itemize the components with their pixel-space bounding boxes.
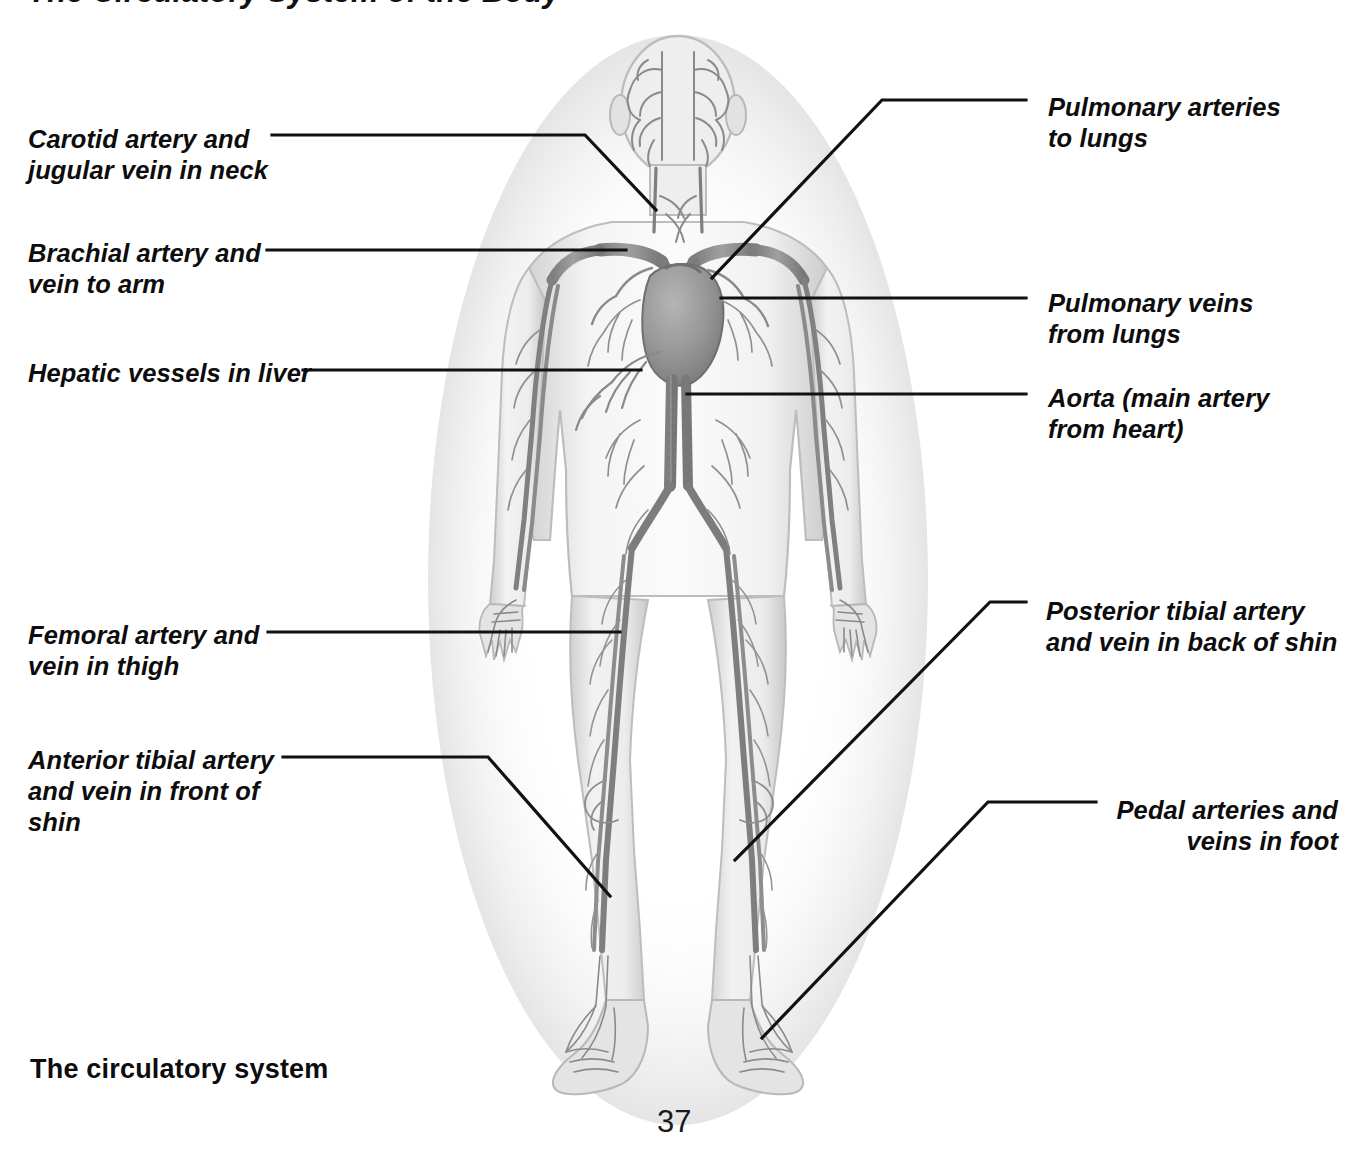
label-brachial: Brachial artery and vein to arm xyxy=(28,238,261,300)
textbook-page: The Circulatory System of the Body Carot… xyxy=(0,0,1355,1158)
label-pulmonary-arteries: Pulmonary arteries to lungs xyxy=(1048,92,1281,154)
label-anterior-tibial: Anterior tibial artery and vein in front… xyxy=(28,745,274,838)
label-pulmonary-veins: Pulmonary veins from lungs xyxy=(1048,288,1254,350)
label-aorta: Aorta (main artery from heart) xyxy=(1048,383,1269,445)
page-title: The Circulatory System of the Body xyxy=(28,0,560,10)
label-femoral: Femoral artery and vein in thigh xyxy=(28,620,259,682)
page-number: 37 xyxy=(657,1104,691,1140)
figure-caption: The circulatory system xyxy=(30,1054,329,1085)
label-pedal: Pedal arteries and veins in foot xyxy=(1008,795,1338,857)
label-carotid-jugular: Carotid artery and jugular vein in neck xyxy=(28,124,268,186)
label-hepatic: Hepatic vessels in liver xyxy=(28,358,311,389)
label-posterior-tibial: Posterior tibial artery and vein in back… xyxy=(1046,596,1337,658)
